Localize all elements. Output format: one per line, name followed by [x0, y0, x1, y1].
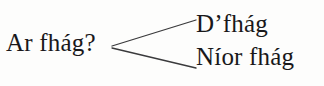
branch-node-label-negative: Níor fhág [196, 44, 294, 69]
branch-node-label-affirmative: D’fhág [196, 11, 268, 36]
branching-diagram: Ar fhág? D’fhág Níor fhág [0, 0, 324, 86]
connector-to-branch-1 [112, 48, 196, 68]
root-node-label: Ar fhág? [6, 30, 96, 55]
connector-to-branch-0 [112, 20, 196, 46]
